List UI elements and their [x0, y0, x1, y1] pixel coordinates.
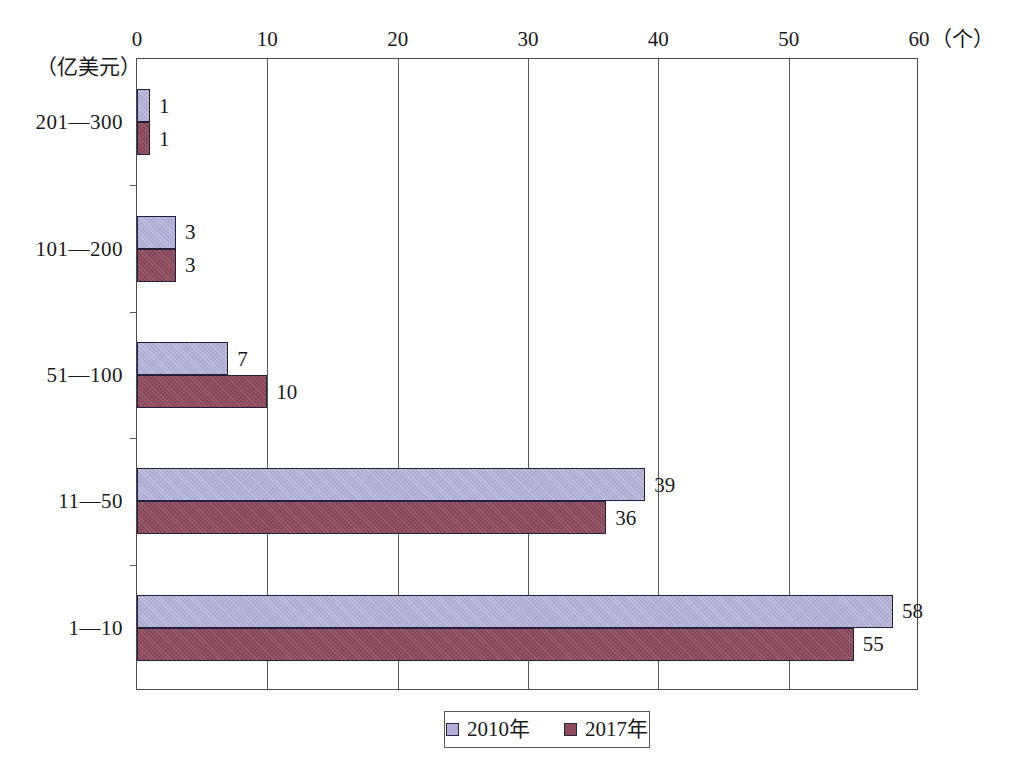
bar[interactable] — [137, 468, 645, 501]
y-axis-category-label: 101—200 — [36, 236, 124, 261]
y-axis-category-label: 51—100 — [47, 363, 124, 388]
bar-value-label: 3 — [185, 255, 196, 276]
bar[interactable] — [137, 628, 854, 661]
bar[interactable] — [137, 122, 150, 155]
bar[interactable] — [137, 249, 176, 282]
y-axis-tick-mark — [130, 438, 137, 439]
bar-value-label: 58 — [902, 601, 923, 622]
bar[interactable] — [137, 595, 893, 628]
legend-swatch-2010 — [446, 723, 459, 736]
x-axis-tick-label: 50 — [778, 29, 799, 50]
x-axis-tick-label: 60 — [909, 29, 930, 50]
y-axis-tick-mark — [130, 565, 137, 566]
bar-value-label: 39 — [654, 474, 675, 495]
y-axis-unit-label: （亿美元） — [36, 50, 141, 80]
y-axis-tick-mark — [130, 185, 137, 186]
legend: 2010年 2017年 — [444, 711, 650, 748]
legend-label-2010: 2010年 — [467, 719, 530, 740]
x-axis-tick-label: 0 — [132, 29, 143, 50]
y-axis-category-label: 201—300 — [36, 110, 124, 135]
y-axis-category-label: 11—50 — [58, 489, 123, 514]
x-axis-tick-label: 30 — [518, 29, 539, 50]
bar-value-label: 3 — [185, 222, 196, 243]
x-axis-tick-label: 10 — [257, 29, 278, 50]
bar-value-label: 1 — [159, 128, 170, 149]
x-axis-unit-label: （个） — [931, 29, 994, 50]
legend-item-2017[interactable]: 2017年 — [564, 719, 648, 740]
y-axis-category-label: 1—10 — [69, 615, 124, 640]
legend-item-2010[interactable]: 2010年 — [446, 719, 530, 740]
bar-value-label: 10 — [276, 381, 297, 402]
legend-label-2017: 2017年 — [585, 719, 648, 740]
bar[interactable] — [137, 216, 176, 249]
bar-value-label: 7 — [237, 348, 248, 369]
bar-chart: （亿美元） 0102030405060（个）201—30011101—20033… — [0, 0, 1017, 781]
plot-area: 0102030405060（个）201—30011101—2003351—100… — [136, 58, 918, 690]
bar[interactable] — [137, 375, 267, 408]
bar-value-label: 55 — [863, 634, 884, 655]
bar[interactable] — [137, 89, 150, 122]
x-axis-tick-label: 20 — [387, 29, 408, 50]
bar-value-label: 1 — [159, 95, 170, 116]
legend-swatch-2017 — [564, 723, 577, 736]
x-axis-tick-label: 40 — [648, 29, 669, 50]
bar[interactable] — [137, 501, 606, 534]
y-axis-tick-mark — [130, 312, 137, 313]
bar[interactable] — [137, 342, 228, 375]
bar-value-label: 36 — [615, 507, 636, 528]
